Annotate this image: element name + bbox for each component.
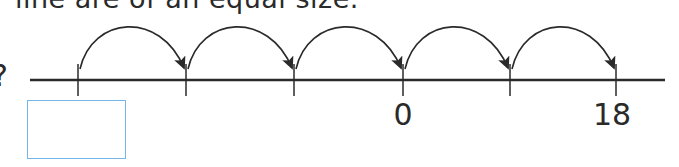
jump-arrow	[80, 27, 184, 69]
jump-arrow	[296, 27, 401, 69]
jump-arrow	[188, 27, 292, 69]
jump-arrow	[512, 27, 614, 69]
jump-arrows	[80, 27, 614, 69]
jump-arrow	[405, 27, 508, 69]
answer-box[interactable]	[27, 100, 126, 159]
tick-label-zero: 0	[393, 97, 412, 132]
tick-label-eighteen: 18	[593, 97, 631, 132]
